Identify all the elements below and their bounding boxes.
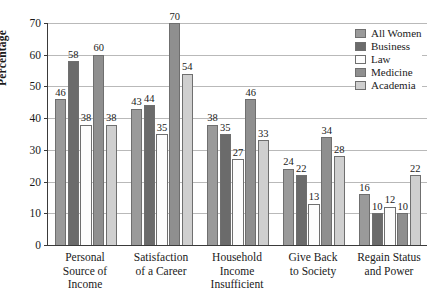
y-axis-tick: [44, 55, 48, 56]
bar-rect: [144, 105, 156, 245]
bar[interactable]: 35: [156, 24, 168, 245]
x-axis-category-line: Personal: [47, 251, 123, 265]
legend-label: Medicine: [371, 67, 413, 78]
y-axis-tick: [44, 245, 48, 246]
bar-rect: [106, 125, 118, 246]
x-axis-category-line: Household: [199, 251, 275, 265]
bar[interactable]: 70: [169, 24, 181, 245]
bar-rect: [80, 125, 92, 246]
bar-rect: [372, 213, 384, 245]
y-axis-tick: [44, 213, 48, 214]
x-axis-category-label: Satisfactionof a Career: [123, 251, 199, 278]
bar-rect: [321, 137, 333, 245]
bar-value-label: 24: [283, 157, 294, 167]
bar[interactable]: 33: [258, 24, 270, 245]
bar-rect: [182, 74, 194, 245]
bar[interactable]: 13: [308, 24, 320, 245]
bar[interactable]: 34: [321, 24, 333, 245]
bar[interactable]: 38: [207, 24, 219, 245]
legend-label: Law: [371, 54, 391, 65]
bar-rect: [68, 61, 80, 245]
bar-value-label: 58: [68, 50, 79, 60]
bar-rect: [93, 55, 105, 245]
bar-rect: [410, 175, 422, 245]
bar-value-label: 28: [334, 145, 345, 155]
legend-item[interactable]: Law: [355, 54, 422, 65]
y-axis-tick: [44, 182, 48, 183]
bar-rect: [359, 194, 371, 245]
x-axis-category-label: Regain Statusand Power: [351, 251, 427, 278]
bar-rect: [232, 159, 244, 245]
bar-value-label: 10: [372, 202, 383, 212]
x-axis-category-line: Regain Status: [351, 251, 427, 265]
x-axis-category-line: Income: [47, 278, 123, 292]
bar-value-label: 35: [220, 123, 231, 133]
bar[interactable]: 28: [334, 24, 346, 245]
bar[interactable]: 43: [131, 24, 143, 245]
bar[interactable]: 46: [245, 24, 257, 245]
legend-item[interactable]: Business: [355, 41, 422, 52]
y-axis-tick-label: 60: [15, 50, 41, 61]
bar-rect: [55, 99, 67, 245]
chart-legend: All WomenBusinessLawMedicineAcademia: [355, 28, 422, 91]
bar-value-label: 43: [131, 97, 142, 107]
legend-swatch-icon: [355, 81, 366, 90]
bar[interactable]: 22: [296, 24, 308, 245]
bar-value-label: 35: [157, 123, 168, 133]
y-axis-tick-label: 50: [15, 81, 41, 92]
bar-rect: [131, 109, 143, 245]
legend-swatch-icon: [355, 68, 366, 77]
x-axis-category-line: Satisfaction: [123, 251, 199, 265]
y-axis-tick: [44, 118, 48, 119]
chart-container: Percentage 46583860384344357054383527463…: [0, 0, 446, 302]
x-axis-category-label: PersonalSource ofIncome: [47, 251, 123, 292]
bar-rect: [296, 175, 308, 245]
legend-swatch-icon: [355, 42, 366, 51]
bar[interactable]: 24: [283, 24, 295, 245]
legend-item[interactable]: Academia: [355, 80, 422, 91]
y-axis-tick-label: 70: [15, 18, 41, 29]
y-axis-tick: [44, 150, 48, 151]
bar[interactable]: 60: [93, 24, 105, 245]
bar-value-label: 13: [309, 192, 320, 202]
bar[interactable]: 38: [80, 24, 92, 245]
bar-rect: [156, 134, 168, 245]
bar-value-label: 46: [55, 88, 66, 98]
bar-group: 4344357054: [131, 24, 193, 245]
x-axis-category-line: Insufficient: [199, 278, 275, 292]
bar[interactable]: 58: [68, 24, 80, 245]
bar-value-label: 38: [207, 113, 218, 123]
bar-value-label: 60: [93, 43, 104, 53]
bar-group: 2422133428: [283, 24, 345, 245]
bar[interactable]: 46: [55, 24, 67, 245]
bar[interactable]: 38: [106, 24, 118, 245]
legend-swatch-icon: [355, 55, 366, 64]
x-axis-category-label: HouseholdIncomeInsufficient: [199, 251, 275, 292]
y-axis-tick-label: 30: [15, 145, 41, 156]
legend-label: All Women: [371, 28, 422, 39]
x-axis-category-line: Give Back: [275, 251, 351, 265]
y-axis-tick-label: 20: [15, 177, 41, 188]
bar-value-label: 10: [397, 202, 408, 212]
bar[interactable]: 54: [182, 24, 194, 245]
bar[interactable]: 27: [232, 24, 244, 245]
bar[interactable]: 35: [220, 24, 232, 245]
bar-rect: [207, 125, 219, 246]
x-axis-category-line: of a Career: [123, 265, 199, 279]
bar-value-label: 38: [81, 113, 92, 123]
bar-value-label: 22: [410, 164, 421, 174]
bar-group: 4658386038: [55, 24, 117, 245]
bar-value-label: 44: [144, 94, 155, 104]
bar-rect: [384, 207, 396, 245]
legend-item[interactable]: Medicine: [355, 67, 422, 78]
y-axis-tick-label: 0: [15, 240, 41, 251]
bar-rect: [283, 169, 295, 245]
bar-group: 3835274633: [207, 24, 269, 245]
bar-rect: [245, 99, 257, 245]
legend-item[interactable]: All Women: [355, 28, 422, 39]
x-axis-category-line: and Power: [351, 265, 427, 279]
bar[interactable]: 44: [144, 24, 156, 245]
y-axis-tick-label: 40: [15, 113, 41, 124]
y-axis-tick: [44, 23, 48, 24]
legend-label: Academia: [371, 80, 416, 91]
